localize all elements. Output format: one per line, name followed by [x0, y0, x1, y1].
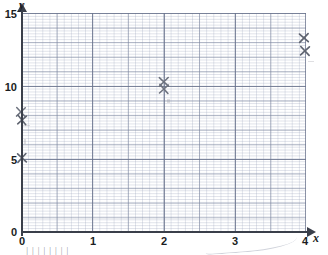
x-tick-4: 4 [302, 236, 308, 247]
gridline-x-4 [305, 13, 306, 232]
pencil-smudge [167, 99, 170, 103]
x-tick-2: 2 [161, 236, 167, 247]
x-axis-line [21, 231, 311, 233]
pencil-smudge [24, 139, 26, 144]
y-axis-label: y [19, 0, 24, 13]
y-tick-10: 10 [5, 82, 17, 93]
gridline-x-3 [235, 13, 236, 232]
x-axis-label: x [313, 231, 319, 246]
y-tick-labels: 15 10 5 0 [0, 0, 17, 255]
x-tick-0: 0 [19, 236, 25, 247]
y-tick-5: 5 [11, 155, 17, 166]
data-point-marker [157, 75, 170, 88]
data-point-marker [158, 83, 171, 96]
x-tick-3: 3 [232, 236, 238, 247]
pencil-smudge [23, 125, 30, 126]
y-tick-15: 15 [5, 9, 17, 20]
x-tick-1: 1 [90, 236, 96, 247]
y-axis-line [21, 9, 23, 236]
gridline-y-15 [21, 13, 306, 14]
cut-off-caption-text: | | | | | | | | [26, 247, 69, 255]
gridline-y-10 [21, 86, 306, 87]
gridline-y-5 [21, 159, 306, 160]
pencil-smudge [308, 61, 314, 62]
gridline-x-2 [164, 13, 165, 232]
gridline-x-1 [92, 13, 93, 232]
y-tick-0: 0 [11, 227, 17, 238]
scatter-chart: y x 15 10 5 0 0 1 2 3 4 | | | | | | | | [0, 0, 328, 255]
plot-area [21, 13, 306, 232]
data-point-marker [299, 44, 312, 57]
cut-off-caption: | | | | | | | | [0, 247, 328, 255]
data-point-marker [298, 31, 311, 44]
